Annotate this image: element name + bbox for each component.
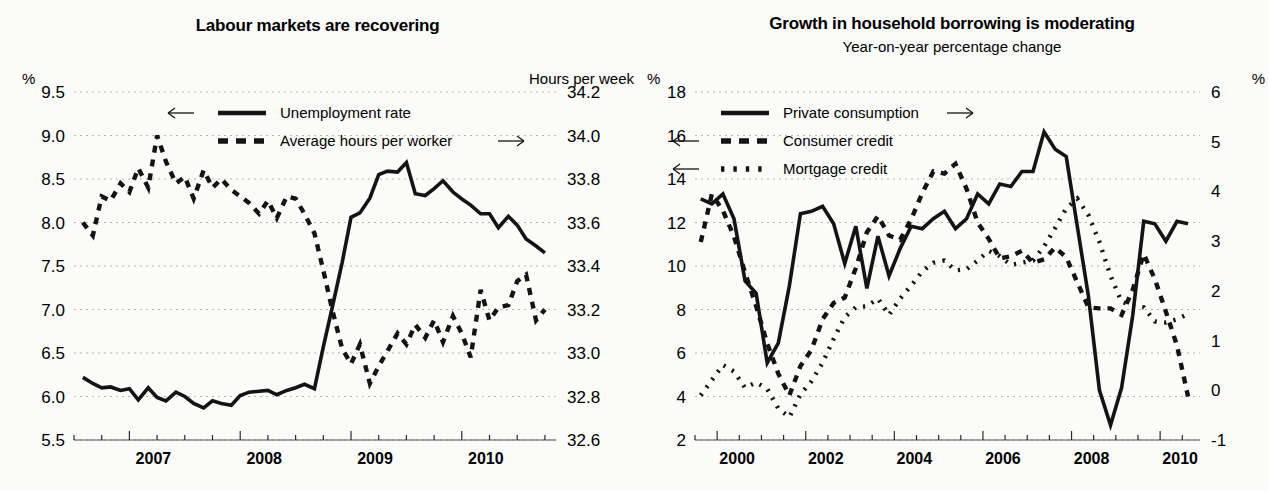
legend-arrow-left	[673, 164, 699, 174]
x-axis-year-label: 2007	[136, 450, 172, 467]
y-axis-tick-label: 18	[667, 83, 686, 102]
series-line-unemployment-rate	[83, 162, 545, 407]
y2-axis-tick-label: 33.0	[567, 344, 600, 363]
y2-axis-tick-label: 33.8	[567, 170, 600, 189]
x-axis-year-label: 2008	[1074, 450, 1110, 467]
legend: Private consumptionConsumer creditMortga…	[673, 104, 973, 177]
series-line-consumer-credit	[701, 164, 1188, 397]
chart-panel-household-borrowing: Growth in household borrowing is moderat…	[635, 0, 1269, 491]
y-axis-tick-label: 6.5	[41, 344, 65, 363]
series-group	[83, 136, 545, 408]
x-axis-year-label: 2002	[808, 450, 844, 467]
legend-label: Unemployment rate	[280, 104, 411, 121]
gridlines-group	[695, 92, 1200, 440]
y-axis-tick-label: 2	[677, 431, 686, 450]
legend-label: Consumer credit	[783, 132, 894, 149]
y-axis-tick-label: 9.0	[41, 127, 65, 146]
labels-group: 5.56.06.57.07.58.08.59.09.532.632.833.03…	[22, 70, 634, 467]
y2-axis-tick-label: 3	[1211, 232, 1220, 251]
legend-arrow-right	[947, 108, 973, 118]
y-axis-tick-label: 12	[667, 214, 686, 233]
series-group	[701, 132, 1188, 425]
legend-label: Mortgage credit	[783, 160, 888, 177]
y-axis-tick-label: 6	[677, 344, 686, 363]
legend-item: Mortgage credit	[673, 160, 888, 177]
y-axis-tick-label: 8.0	[41, 214, 65, 233]
y-axis-tick-label: 7.5	[41, 257, 65, 276]
y-axis-tick-label: 14	[667, 170, 686, 189]
axes-group	[74, 431, 556, 440]
y-axis-tick-label: 4	[677, 388, 686, 407]
y-axis-tick-label: 16	[667, 127, 686, 146]
y2-axis-tick-label: 0	[1211, 381, 1220, 400]
y2-axis-tick-label: 32.6	[567, 431, 600, 450]
legend-item: Private consumption	[721, 104, 973, 121]
chart-panel-labour-markets: Labour markets are recovering 5.56.06.57…	[0, 0, 635, 491]
y2-axis-tick-label: -1	[1211, 431, 1226, 450]
y-axis-tick-label: 10	[667, 257, 686, 276]
x-axis-year-label: 2006	[985, 450, 1021, 467]
y2-axis-tick-label: 2	[1211, 282, 1220, 301]
figure-page: Labour markets are recovering 5.56.06.57…	[0, 0, 1269, 491]
y2-axis-unit-label: %	[1252, 70, 1265, 87]
axes-group	[695, 431, 1200, 440]
y-axis-tick-label: 6.0	[41, 388, 65, 407]
legend-label: Average hours per worker	[280, 132, 452, 149]
x-axis-year-label: 2004	[897, 450, 933, 467]
series-line-mortgage-credit	[701, 199, 1188, 418]
y2-axis-tick-label: 32.8	[567, 388, 600, 407]
legend-arrow-right	[498, 136, 524, 146]
legend-item: Average hours per worker	[218, 132, 524, 149]
chart-svg-left: 5.56.06.57.07.58.08.59.09.532.632.833.03…	[0, 0, 635, 491]
legend-arrow-left	[168, 108, 194, 118]
y2-axis-tick-label: 33.4	[567, 257, 600, 276]
chart-svg-right: 24681012141618-1012345620002002200420062…	[635, 0, 1269, 491]
y-axis-unit-label: %	[647, 70, 660, 87]
legend-item: Unemployment rate	[168, 104, 411, 121]
legend-item: Consumer credit	[673, 132, 894, 149]
chart-title-right: Growth in household borrowing is moderat…	[635, 14, 1269, 34]
y-axis-tick-label: 8.5	[41, 170, 65, 189]
x-axis-year-label: 2010	[1162, 450, 1198, 467]
x-axis-year-label: 2010	[468, 450, 504, 467]
chart-title-left: Labour markets are recovering	[0, 16, 635, 36]
legend: Unemployment rateAverage hours per worke…	[168, 104, 524, 149]
y2-axis-tick-label: 33.2	[567, 301, 600, 320]
labels-group: 24681012141618-1012345620002002200420062…	[647, 70, 1265, 467]
y-axis-tick-label: 5.5	[41, 431, 65, 450]
y2-axis-unit-label: Hours per week	[529, 70, 635, 87]
y-axis-tick-label: 8	[677, 301, 686, 320]
y2-axis-tick-label: 5	[1211, 133, 1220, 152]
y-axis-tick-label: 9.5	[41, 83, 65, 102]
y2-axis-tick-label: 6	[1211, 83, 1220, 102]
x-axis-year-label: 2000	[719, 450, 755, 467]
series-line-average-hours-per-worker	[83, 136, 545, 384]
x-axis-year-label: 2008	[246, 450, 282, 467]
x-axis-year-label: 2009	[357, 450, 393, 467]
y2-axis-tick-label: 1	[1211, 332, 1220, 351]
y2-axis-tick-label: 4	[1211, 182, 1220, 201]
y-axis-unit-label: %	[22, 70, 35, 87]
y-axis-tick-label: 7.0	[41, 301, 65, 320]
legend-label: Private consumption	[783, 104, 919, 121]
y2-axis-tick-label: 34.0	[567, 127, 600, 146]
chart-subtitle-right: Year-on-year percentage change	[635, 38, 1269, 55]
y2-axis-tick-label: 33.6	[567, 214, 600, 233]
legend-arrow-left	[673, 136, 699, 146]
